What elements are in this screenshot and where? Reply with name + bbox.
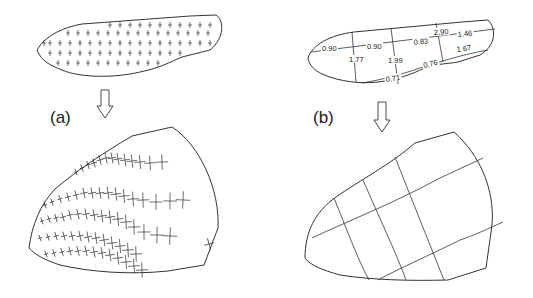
grid-value-label: 0.76 bbox=[422, 58, 438, 70]
panel-label-a: (a) bbox=[50, 108, 71, 127]
arrow-down-icon bbox=[374, 102, 390, 132]
grid-value-label: 0.90 bbox=[367, 42, 382, 51]
arrow-down-icon bbox=[97, 90, 113, 118]
panel-a-deformed-shape bbox=[29, 127, 218, 278]
deformed-crosses bbox=[37, 152, 215, 278]
grid-value-label: 0.71 bbox=[385, 73, 401, 84]
grid-value-label: 1.77 bbox=[349, 55, 364, 64]
figure-canvas: 0.901.770.901.990.832.901.461.670.760.71… bbox=[0, 0, 533, 298]
shape-crosses bbox=[42, 22, 212, 66]
grid-value-label: 0.90 bbox=[322, 44, 337, 53]
panel-b-deformed-grid bbox=[305, 132, 503, 280]
panel-b-original-grid: 0.901.770.901.990.832.901.461.670.760.71 bbox=[308, 20, 495, 84]
grid-value-label: 2.90 bbox=[434, 27, 449, 37]
panel-label-b: (b) bbox=[313, 108, 334, 127]
panel-a-original-shape bbox=[37, 15, 222, 76]
grid-value-label: 1.46 bbox=[457, 29, 472, 39]
grid-value-label: 1.67 bbox=[456, 43, 472, 54]
grid-value-label: 1.99 bbox=[388, 56, 403, 65]
grid-value-label: 0.83 bbox=[413, 37, 428, 47]
grid-values: 0.901.770.901.990.832.901.461.670.760.71 bbox=[321, 27, 474, 84]
